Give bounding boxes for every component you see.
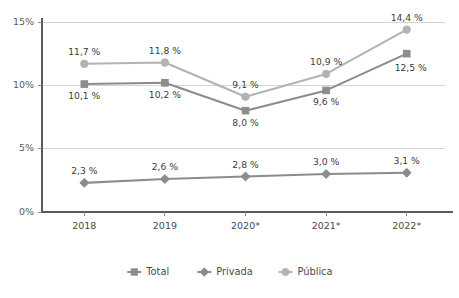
data-point-marker-square bbox=[131, 269, 137, 275]
x-tick-label-2020p: 2020* bbox=[231, 220, 260, 231]
data-point-marker-diamond bbox=[402, 168, 411, 177]
data-point-marker-circle bbox=[242, 93, 249, 100]
data-label-privada-2021p: 3,0 % bbox=[313, 156, 340, 167]
data-label-pública-2021p: 10,9 % bbox=[310, 56, 342, 67]
x-tick-label-2022p: 2022* bbox=[392, 220, 421, 231]
x-tick-label-2021p: 2021* bbox=[312, 220, 341, 231]
legend-label-total: Total bbox=[145, 266, 169, 277]
data-point-marker-circle bbox=[161, 59, 168, 66]
data-label-total-2019: 10,2 % bbox=[149, 89, 181, 100]
data-point-marker-diamond bbox=[160, 175, 169, 184]
x-tick-label-2018: 2018 bbox=[72, 220, 96, 231]
data-label-privada-2020p: 2,8 % bbox=[232, 159, 259, 170]
data-point-marker-square bbox=[403, 50, 410, 57]
data-point-marker-circle bbox=[282, 269, 289, 276]
data-label-pública-2019: 11,8 % bbox=[149, 45, 181, 56]
data-point-marker-diamond bbox=[322, 170, 331, 179]
data-point-marker-square bbox=[323, 87, 330, 94]
x-tick-label-2019: 2019 bbox=[153, 220, 177, 231]
data-point-marker-circle bbox=[81, 60, 88, 67]
data-label-pública-2018: 11,7 % bbox=[68, 46, 100, 57]
data-point-marker-diamond bbox=[241, 172, 250, 181]
data-label-total-2022p: 12,5 % bbox=[395, 62, 427, 73]
data-point-marker-diamond bbox=[200, 268, 208, 276]
line-chart: 0%5%10%15% 201820192020*2021*2022* 10,1 … bbox=[0, 0, 459, 298]
legend-item-pública[interactable]: Pública bbox=[279, 266, 333, 277]
data-label-total-2018: 10,1 % bbox=[68, 90, 100, 101]
data-label-pública-2020p: 9,1 % bbox=[232, 79, 259, 90]
data-point-marker-square bbox=[162, 80, 169, 87]
legend-item-privada[interactable]: Privada bbox=[197, 266, 253, 277]
chart-canvas: 0%5%10%15% 201820192020*2021*2022* 10,1 … bbox=[0, 0, 459, 298]
legend-item-total[interactable]: Total bbox=[127, 266, 169, 277]
y-tick-label-5pct: 5% bbox=[19, 142, 34, 153]
legend-label-pública: Pública bbox=[298, 266, 333, 277]
data-point-marker-circle bbox=[322, 70, 329, 77]
data-point-marker-square bbox=[81, 81, 88, 88]
y-tick-label-15pct: 15% bbox=[13, 16, 34, 27]
y-tick-label-0pct: 0% bbox=[19, 206, 34, 217]
y-tick-label-10pct: 10% bbox=[13, 79, 34, 90]
data-label-total-2020p: 8,0 % bbox=[232, 117, 259, 128]
data-point-marker-diamond bbox=[80, 178, 89, 187]
data-point-marker-square bbox=[242, 107, 249, 114]
y-axis-tick-labels: 0%5%10%15% bbox=[13, 16, 42, 217]
legend-label-privada: Privada bbox=[216, 266, 253, 277]
data-label-privada-2018: 2,3 % bbox=[71, 165, 98, 176]
x-axis-tick-labels: 201820192020*2021*2022* bbox=[72, 212, 421, 231]
data-label-pública-2022p: 14,4 % bbox=[391, 12, 423, 23]
data-point-marker-circle bbox=[403, 26, 410, 33]
data-label-privada-2019: 2,6 % bbox=[152, 161, 179, 172]
chart-legend: TotalPrivadaPública bbox=[127, 266, 332, 277]
data-label-privada-2022p: 3,1 % bbox=[394, 155, 421, 166]
data-label-total-2021p: 9,6 % bbox=[313, 96, 340, 107]
